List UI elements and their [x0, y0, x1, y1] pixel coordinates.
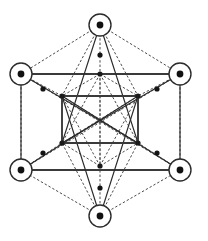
mid-dot-mid-top: [97, 52, 102, 57]
circled-vertex-top: [89, 14, 111, 36]
vertex-inner-upper-right: [135, 93, 140, 98]
circled-vertex-lower-right: [169, 159, 191, 181]
vertex-dot-top: [97, 22, 104, 29]
vertex-inner-top: [97, 71, 102, 76]
mid-dot-mid-lower-left: [40, 150, 45, 155]
vertex-dot-upper-right: [177, 71, 184, 78]
geometry-canvas: [0, 0, 208, 241]
vertex-inner-lower-right: [135, 140, 140, 145]
vertex-inner-upper-left: [59, 93, 64, 98]
vertex-inner-bottom: [97, 163, 102, 168]
metatron-cube-figure: [0, 0, 208, 241]
circled-vertex-lower-left: [10, 159, 32, 181]
vertex-inner-lower-left: [59, 140, 64, 145]
mid-dot-mid-bottom: [97, 185, 102, 190]
circled-vertex-upper-right: [169, 63, 191, 85]
circled-vertex-upper-left: [10, 63, 32, 85]
vertex-dot-lower-left: [18, 167, 25, 174]
mid-dot-mid-lower-right: [154, 150, 159, 155]
vertex-dot-lower-right: [177, 167, 184, 174]
mid-dot-mid-upper-right: [154, 86, 159, 91]
mid-dot-mid-upper-left: [40, 86, 45, 91]
vertex-dot-upper-left: [18, 71, 25, 78]
circled-vertex-bottom: [89, 205, 111, 227]
vertex-dot-bottom: [97, 213, 104, 220]
